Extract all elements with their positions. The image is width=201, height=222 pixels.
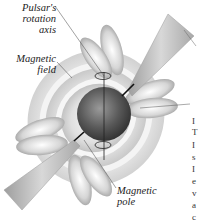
pulsar-diagram: Pulsar's rotation axis Magnetic field Ma… — [0, 0, 201, 222]
cropped-text-fragment: c — [192, 212, 196, 222]
label-line: field — [10, 64, 56, 75]
label-line: axis — [22, 24, 56, 35]
cropped-text-fragment: v — [192, 188, 197, 198]
label-line: Magnetic — [117, 185, 167, 196]
cropped-text-fragment: T — [192, 127, 198, 137]
label-line: Pulsar's — [22, 2, 56, 13]
label-line: pole — [117, 196, 167, 207]
cropped-text-fragment: I — [192, 140, 195, 150]
cropped-text-fragment: I — [192, 116, 195, 126]
magnetic-pole-label: Magnetic pole — [117, 185, 167, 207]
cropped-text-fragment: s — [192, 152, 196, 162]
cropped-text-fragment: a — [192, 200, 196, 210]
cropped-text-fragment: e — [192, 176, 196, 186]
label-line: Magnetic — [10, 53, 56, 64]
label-line: rotation — [22, 13, 56, 24]
rotation-axis-label: Pulsar's rotation axis — [22, 2, 56, 35]
magnetic-field-label: Magnetic field — [10, 53, 56, 75]
cropped-text-fragment: I — [192, 164, 195, 174]
